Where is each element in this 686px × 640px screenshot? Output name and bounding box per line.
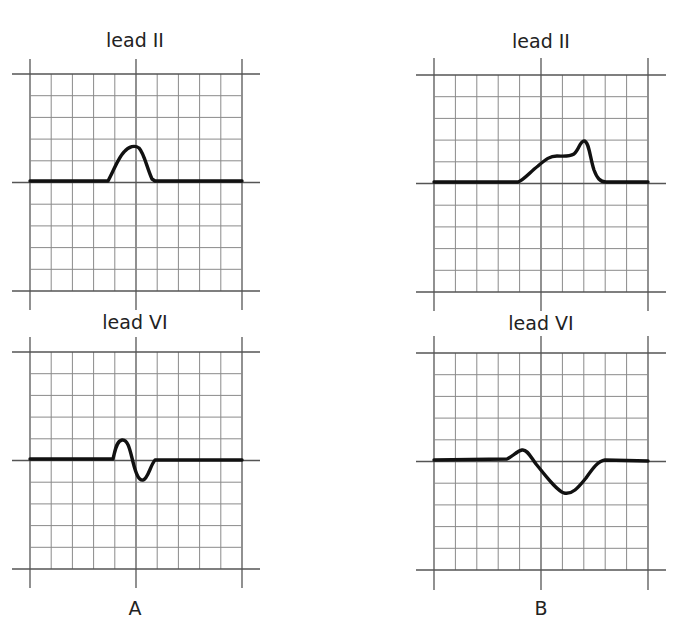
- panel-a-top-grid: [12, 59, 260, 310]
- column-a: lead II lead VI A: [12, 29, 260, 619]
- panel-a-bottom-grid: [12, 337, 260, 588]
- column-b-caption: B: [534, 597, 547, 619]
- panel-b-top-lead-label: lead II: [512, 30, 570, 52]
- panel-a-bottom-lead-label: lead VI: [102, 311, 167, 333]
- panel-b-top-grid: [416, 58, 666, 311]
- ecg-figure: lead II lead VI A lead II lead VI B: [0, 0, 686, 640]
- panel-b-bottom-lead-label: lead VI: [508, 312, 573, 334]
- column-b: lead II lead VI B: [416, 30, 666, 619]
- panel-a-top-lead-label: lead II: [106, 29, 164, 51]
- column-a-caption: A: [129, 597, 142, 619]
- panel-b-bottom-grid: [416, 336, 666, 590]
